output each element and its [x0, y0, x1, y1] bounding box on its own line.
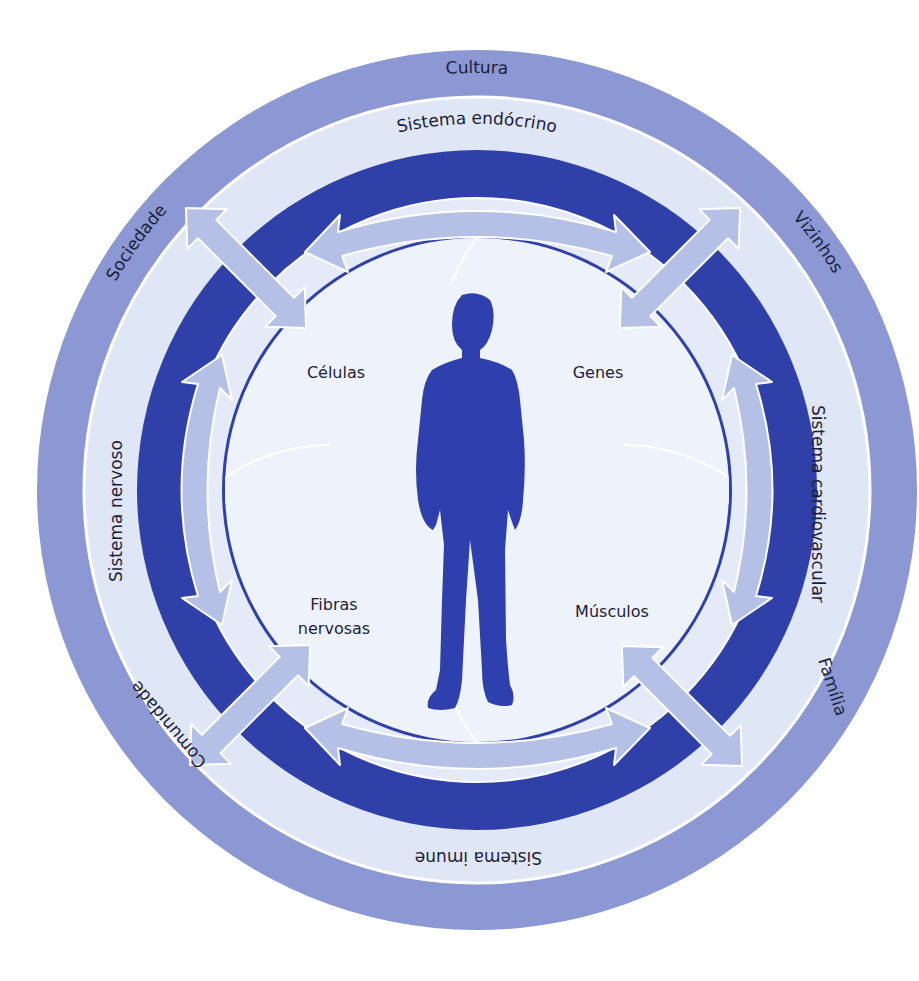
health-systems-diagram: Cultura Vizinhos Sociedade Família Comun…	[0, 0, 919, 981]
label-genes: Genes	[573, 363, 624, 382]
label-cardiovascular-system: Sistema cardiovascular	[808, 405, 828, 603]
label-nerve-fibers-line2: nervosas	[298, 619, 370, 638]
label-cells: Células	[307, 363, 365, 382]
label-nervous-system: Sistema nervoso	[106, 440, 126, 582]
label-muscles: Músculos	[575, 602, 649, 621]
label-immune-system: Sistema imune	[415, 848, 542, 868]
label-culture: Cultura	[445, 57, 509, 78]
label-nerve-fibers-line1: Fibras	[310, 595, 357, 614]
